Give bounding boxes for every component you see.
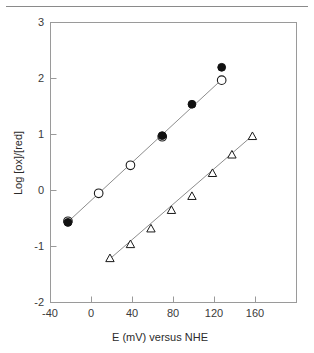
data-point-open-triangles-0 (106, 254, 114, 262)
x-tick-label-160: 160 (246, 307, 264, 319)
y-tick-label-3: 3 (38, 16, 44, 28)
data-point-filled-circles-1 (158, 132, 166, 140)
x-tick-label-40: 40 (126, 307, 138, 319)
data-point-open-triangles-4 (188, 192, 196, 200)
data-point-filled-circles-2 (188, 100, 196, 108)
x-tick-label-120: 120 (205, 307, 223, 319)
data-point-open-circles-1 (94, 189, 103, 198)
y-tick-label-0: 0 (38, 184, 44, 196)
y-tick-label-1: 1 (38, 128, 44, 140)
x-tick-labels: -40 0 40 80 120 160 (42, 307, 264, 319)
plot-frame (51, 23, 297, 303)
x-axis-title: E (mV) versus NHE (112, 331, 208, 343)
scatter-plot-svg: 3 2 1 0 -1 -2 -40 0 40 80 120 160 E (mV)… (0, 0, 314, 353)
trend-line-open-circles (68, 80, 222, 222)
data-point-open-circles-4 (217, 76, 226, 85)
x-axis-ticks (51, 297, 256, 303)
y-axis-title: Log [ox]/[red] (12, 131, 24, 195)
y-tick-labels: 3 2 1 0 -1 -2 (34, 16, 44, 308)
y-tick-label-neg1: -1 (34, 240, 44, 252)
data-point-open-triangles-7 (248, 132, 256, 140)
data-point-open-triangles-3 (167, 206, 175, 214)
x-tick-label-0: 0 (88, 307, 94, 319)
chart-figure: 3 2 1 0 -1 -2 -40 0 40 80 120 160 E (mV)… (0, 0, 314, 353)
data-point-open-circles-2 (126, 161, 135, 170)
x-tick-label-neg40: -40 (42, 307, 58, 319)
y-axis-ticks (51, 23, 57, 303)
data-point-filled-circles-3 (218, 63, 226, 71)
x-tick-label-80: 80 (167, 307, 179, 319)
plot-series-group (64, 63, 257, 261)
data-point-open-triangles-6 (228, 150, 236, 158)
data-point-filled-circles-0 (64, 219, 72, 227)
y-tick-label-2: 2 (38, 72, 44, 84)
